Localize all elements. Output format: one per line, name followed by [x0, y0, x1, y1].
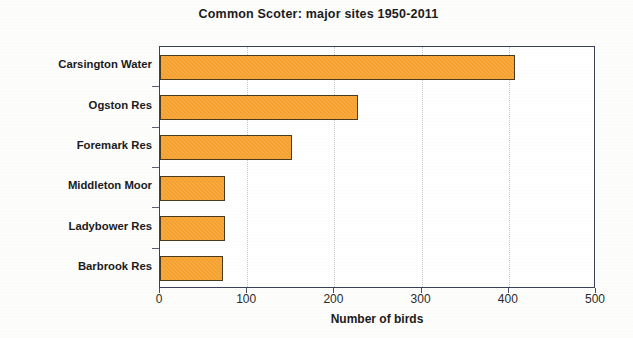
bar-chart: Common Scoter: major sites 1950-2011 Car…	[0, 0, 633, 338]
x-axis-tick-label-100: 100	[216, 292, 276, 306]
y-axis-category-labels: Carsington WaterOgston ResForemark ResMi…	[0, 46, 152, 288]
bar	[160, 256, 223, 281]
bar	[160, 55, 515, 80]
plot-area	[159, 46, 595, 288]
chart-title: Common Scoter: major sites 1950-2011	[2, 7, 633, 21]
y-axis-label-carsington-water: Carsington Water	[0, 58, 152, 70]
y-axis-label-ladybower-res: Ladybower Res	[0, 220, 152, 232]
x-axis-tick-label-300: 300	[391, 292, 451, 306]
y-axis-tick	[152, 167, 159, 168]
bar	[160, 95, 358, 120]
y-axis-tick	[152, 127, 159, 128]
x-axis-tick-label-500: 500	[565, 292, 625, 306]
x-axis-tick-label-200: 200	[303, 292, 363, 306]
x-axis-title: Number of birds	[159, 312, 595, 326]
bar	[160, 216, 225, 241]
y-axis-label-foremark-res: Foremark Res	[0, 139, 152, 151]
y-axis-label-ogston-res: Ogston Res	[0, 99, 152, 111]
bars-layer	[160, 47, 594, 287]
y-axis-tick	[152, 86, 159, 87]
y-axis-label-middleton-moor: Middleton Moor	[0, 179, 152, 191]
x-axis-tick-label-400: 400	[478, 292, 538, 306]
x-axis-tick-label-0: 0	[129, 292, 189, 306]
y-axis-tick	[152, 248, 159, 249]
bar	[160, 135, 292, 160]
bar	[160, 176, 225, 201]
y-axis-label-barbrook-res: Barbrook Res	[0, 260, 152, 272]
y-axis-tick	[152, 207, 159, 208]
